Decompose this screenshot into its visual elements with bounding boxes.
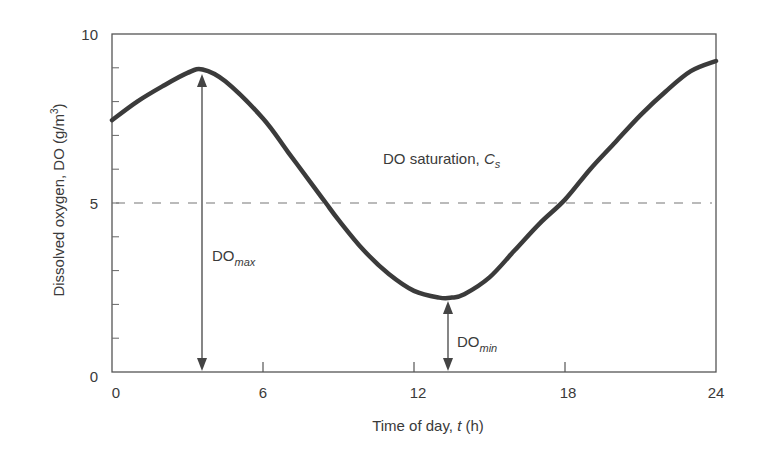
x-tick-label-6: 6 <box>259 384 267 401</box>
saturation-label: DO saturation, Cs <box>383 150 501 170</box>
x-tick-label-24: 24 <box>708 384 725 401</box>
y-axis-title: Dissolved oxygen, DO (g/m3) <box>49 103 67 296</box>
y-tick-label-0: 0 <box>90 368 98 385</box>
do-min-arrow <box>443 301 453 371</box>
do-max-label: DOmax <box>212 247 256 268</box>
y-tick-label-5: 5 <box>90 195 98 212</box>
x-ticks <box>263 362 565 372</box>
arrow-down-icon <box>443 358 453 371</box>
do-min-label: DOmin <box>457 333 497 354</box>
x-axis-title: Time of day, t (h) <box>372 417 484 434</box>
arrow-down-icon <box>197 358 207 371</box>
x-tick-label-0: 0 <box>112 384 120 401</box>
x-tick-label-12: 12 <box>410 384 427 401</box>
x-tick-label-18: 18 <box>560 384 577 401</box>
arrow-up-icon <box>197 74 207 87</box>
y-tick-label-10: 10 <box>81 26 98 43</box>
arrow-up-icon <box>443 301 453 314</box>
dissolved-oxygen-chart: 10 5 0 0 6 12 18 24 Time of day, t (h) D… <box>0 0 757 456</box>
do-max-arrow <box>197 74 207 371</box>
